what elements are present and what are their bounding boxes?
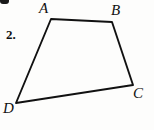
vertex-label-a: A [39, 1, 48, 16]
quadrilateral-diagram [0, 0, 154, 130]
vertex-label-c: C [133, 86, 143, 101]
vertex-label-b: B [111, 3, 120, 18]
problem-number-label: 2. [6, 28, 16, 41]
vertex-label-d: D [3, 101, 14, 116]
quadrilateral-abcd [16, 19, 133, 103]
geometry-figure-panel: 2. A B C D [0, 0, 154, 130]
